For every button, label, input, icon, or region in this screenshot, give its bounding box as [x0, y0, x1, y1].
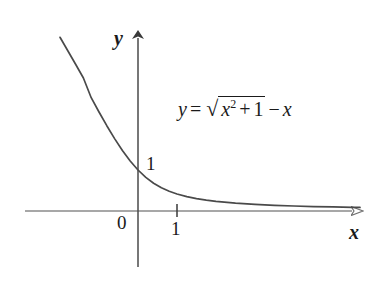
x-axis-label: x	[349, 222, 359, 242]
radical-sign-icon: √	[206, 96, 218, 121]
x-tick-label-1: 1	[171, 219, 181, 238]
equation-minus-sign: −	[265, 98, 282, 120]
origin-label: 0	[117, 213, 127, 232]
function-graph-figure: y x 0 1 1 y=√x2+1−x	[0, 0, 386, 292]
radicand-plus-sign: +	[236, 98, 253, 120]
radicand-base: x	[221, 98, 230, 120]
y-axis-label: y	[114, 28, 123, 48]
plot-canvas	[0, 0, 386, 292]
equation-equals-sign: =	[187, 98, 204, 120]
radicand-constant: 1	[253, 98, 263, 120]
equation-lhs: y	[178, 98, 187, 120]
function-curve	[60, 37, 360, 207]
radicand: x2+1	[218, 96, 265, 119]
equation-annotation: y=√x2+1−x	[178, 96, 292, 120]
y-tick-label-1: 1	[146, 154, 156, 173]
equation-trailing-term: x	[283, 98, 292, 120]
square-root-expression: √x2+1	[204, 96, 265, 120]
